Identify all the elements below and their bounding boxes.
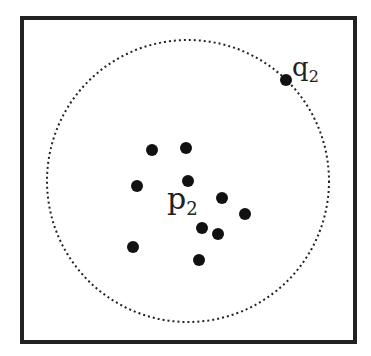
data-point: [127, 241, 139, 253]
data-point: [131, 180, 143, 192]
point-q2: [280, 74, 292, 86]
data-point: [146, 144, 158, 156]
data-points: [127, 74, 292, 266]
data-point: [180, 142, 192, 154]
data-point: [239, 208, 251, 220]
label-p2: p2: [167, 181, 198, 219]
data-point: [196, 222, 208, 234]
cluster-diagram: p2 q2: [0, 0, 371, 356]
data-point: [216, 192, 228, 204]
data-point: [193, 254, 205, 266]
label-q2: q2: [292, 52, 319, 86]
data-point: [212, 228, 224, 240]
